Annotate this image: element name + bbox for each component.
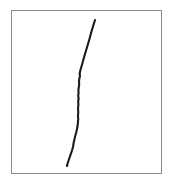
line-drawing-canvas: [0, 0, 173, 184]
figure-root: [0, 0, 173, 184]
plot-frame-border: [12, 11, 162, 174]
